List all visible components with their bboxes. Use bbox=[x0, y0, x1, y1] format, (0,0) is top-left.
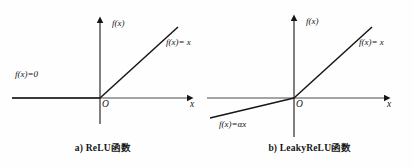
panel-relu: f(x) x O f(x)=0 f(x)= x a) ReLU函数 bbox=[0, 0, 206, 168]
panel-leakyrelu: f(x) x O f(x)=αx f(x)= x b) LeakyReLU函数 bbox=[207, 0, 413, 168]
relu-left-branch-label: f(x)=0 bbox=[15, 70, 38, 79]
relu-right-branch-label: f(x)= x bbox=[166, 38, 191, 47]
x-axis-label: x bbox=[190, 100, 194, 110]
origin-label: O bbox=[102, 100, 109, 110]
y-axis-label: f(x) bbox=[112, 19, 125, 28]
leaky-left-branch-label: f(x)=αx bbox=[219, 120, 246, 129]
panel-b-caption: b) LeakyReLU函数 bbox=[207, 140, 413, 154]
x-axis-label: x bbox=[387, 100, 391, 110]
y-axis-label: f(x) bbox=[306, 17, 319, 26]
leaky-negative-segment bbox=[210, 98, 294, 118]
origin-label: O bbox=[296, 100, 303, 110]
panel-a-caption: a) ReLU函数 bbox=[0, 140, 206, 154]
leaky-right-branch-label: f(x)= x bbox=[359, 38, 384, 47]
activation-function-figure: f(x) x O f(x)=0 f(x)= x a) ReLU函数 bbox=[0, 0, 413, 168]
